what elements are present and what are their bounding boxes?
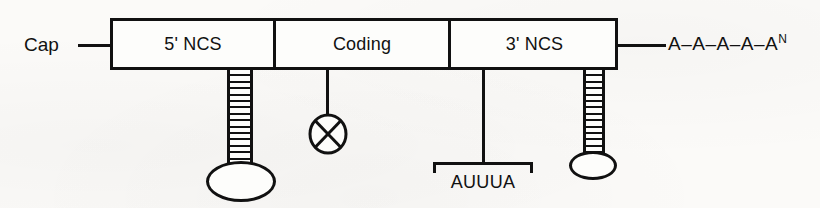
poly-a-connector-line xyxy=(616,44,666,47)
poly-a-tail-superscript: N xyxy=(778,32,787,46)
auuua-label: AUUUA xyxy=(433,170,533,194)
stem-loop-3utr-loop xyxy=(569,151,617,180)
cap-connector-line xyxy=(78,44,112,47)
stem-loop-3utr-stem xyxy=(583,68,605,154)
cap-label: Cap xyxy=(24,32,59,58)
segment-label-coding: Coding xyxy=(276,31,448,57)
stem-loop-5utr-loop xyxy=(206,161,276,202)
circled-x-connector-line xyxy=(326,68,329,115)
diagram-layer: Cap 5' NCS Coding 3' NCS A–A–A–A–AN AUUU… xyxy=(0,0,820,208)
poly-a-tail-bases: A–A–A–A–A xyxy=(668,33,778,54)
figure-canvas: Cap 5' NCS Coding 3' NCS A–A–A–A–AN AUUU… xyxy=(0,0,820,208)
stem-loop-5utr-stem xyxy=(227,68,253,164)
poly-a-tail-label: A–A–A–A–AN xyxy=(668,31,787,57)
segment-label-five-prime-ncs: 5' NCS xyxy=(113,31,273,57)
circled-x-icon xyxy=(308,113,348,155)
segment-label-three-prime-ncs: 3' NCS xyxy=(451,31,618,57)
auuua-connector-line xyxy=(482,68,485,164)
